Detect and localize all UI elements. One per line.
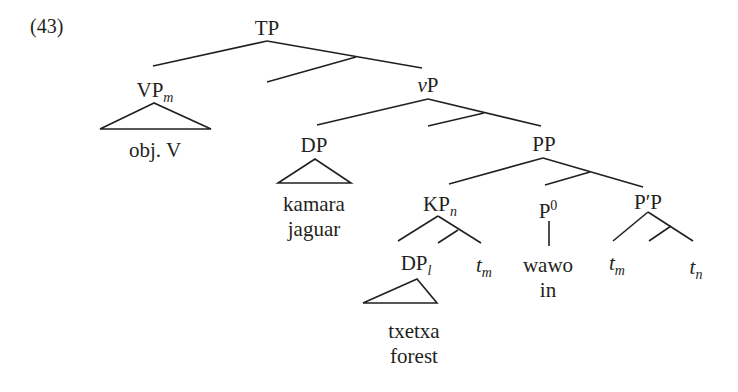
node-label: P bbox=[427, 73, 439, 97]
node-label: TP bbox=[255, 16, 280, 40]
node-little-vp: vP bbox=[417, 73, 438, 97]
syntax-tree: (43) TP VPm obj. V vP DP kamara jaguar P… bbox=[0, 0, 738, 392]
trace-m-pp: tm bbox=[609, 251, 625, 283]
node-label: P bbox=[539, 199, 551, 223]
node-dp: DP bbox=[301, 133, 328, 157]
node-p-prime-p: P′P bbox=[634, 190, 662, 214]
terminal-dp-line2: jaguar bbox=[288, 217, 340, 241]
terminal-p0-line1: wawo bbox=[523, 253, 573, 277]
node-bar-level: 0 bbox=[550, 198, 557, 213]
trace-m-kp: tm bbox=[476, 253, 492, 285]
node-pp: PP bbox=[532, 132, 555, 156]
example-number: (43) bbox=[30, 14, 63, 38]
node-dpl: DPl bbox=[401, 251, 432, 283]
node-label: DP bbox=[401, 251, 428, 275]
terminal-p0-line2: in bbox=[540, 278, 556, 302]
node-label: VP bbox=[137, 78, 164, 102]
node-index: n bbox=[450, 204, 457, 219]
node-vpm: VPm bbox=[137, 78, 174, 110]
terminal-vpm: obj. V bbox=[129, 138, 181, 162]
node-kpn: KPn bbox=[423, 192, 457, 224]
tree-branches bbox=[0, 0, 738, 392]
node-label: PP bbox=[532, 132, 555, 156]
trace-n: tn bbox=[690, 255, 703, 287]
node-label-italic: v bbox=[417, 73, 426, 97]
trace-index: n bbox=[695, 267, 702, 282]
trace-index: m bbox=[615, 263, 625, 278]
node-label: P′P bbox=[634, 190, 662, 214]
node-tp: TP bbox=[255, 16, 280, 40]
node-p0: P0 bbox=[539, 194, 558, 223]
terminal-dp-line1: kamara bbox=[283, 192, 345, 216]
node-label: DP bbox=[301, 133, 328, 157]
node-index: l bbox=[427, 263, 431, 278]
terminal-dpl-line1: txetxa bbox=[388, 319, 439, 343]
terminal-dpl-line2: forest bbox=[390, 344, 438, 368]
trace-index: m bbox=[482, 265, 492, 280]
node-index: m bbox=[163, 90, 173, 105]
node-label: KP bbox=[423, 192, 450, 216]
